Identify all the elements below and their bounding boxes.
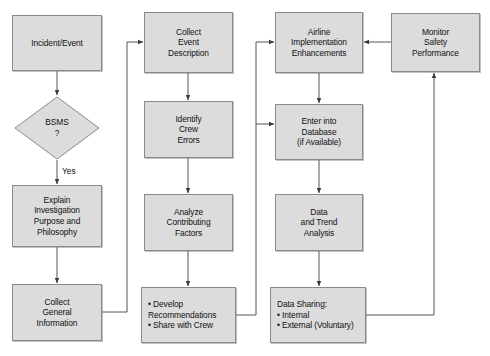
node-identify-crew-errors[interactable]: Identify Crew Errors: [144, 101, 233, 158]
node-label: Identify Crew Errors: [175, 114, 201, 146]
node-label: Monitor Safety Performance: [412, 27, 459, 59]
flowchart-canvas: Incident/Event BSMS ? Yes Explain Invest…: [0, 0, 490, 356]
node-label: • Develop Recommendations • Share with C…: [148, 299, 216, 331]
node-analyze-contributing-factors[interactable]: Analyze Contributing Factors: [144, 194, 233, 251]
node-label: BSMS ?: [14, 96, 100, 160]
edge-sharing-to-monitor: [366, 73, 434, 315]
node-label: Airline Implementation Enhancements: [291, 27, 347, 59]
node-airline-implementation-enhancements[interactable]: Airline Implementation Enhancements: [275, 12, 363, 73]
node-label: Data and Trend Analysis: [301, 207, 338, 239]
node-data-and-trend-analysis[interactable]: Data and Trend Analysis: [275, 194, 363, 251]
node-label: Incident/Event: [31, 38, 83, 49]
node-monitor-safety-performance[interactable]: Monitor Safety Performance: [391, 13, 480, 72]
edge-label-yes: Yes: [62, 166, 76, 176]
node-incident-event[interactable]: Incident/Event: [12, 15, 102, 71]
node-label: Collect Event Description: [168, 27, 209, 59]
node-explain-investigation[interactable]: Explain Investigation Purpose and Philos…: [12, 185, 102, 247]
node-label: Data Sharing: • Internal • External (Vol…: [277, 299, 354, 331]
node-collect-event-description[interactable]: Collect Event Description: [144, 12, 233, 73]
edge-collect-general-to-collect-event: [102, 42, 143, 312]
node-label: Collect General Information: [37, 297, 78, 329]
node-enter-into-database[interactable]: Enter into Database (if Available): [275, 104, 363, 160]
node-collect-general-information[interactable]: Collect General Information: [12, 284, 102, 341]
node-bsms-decision[interactable]: BSMS ?: [14, 96, 100, 160]
node-data-sharing[interactable]: Data Sharing: • Internal • External (Vol…: [270, 287, 366, 343]
node-label: Enter into Database (if Available): [297, 116, 341, 148]
node-develop-recommendations[interactable]: • Develop Recommendations • Share with C…: [141, 287, 236, 343]
edge-develop-to-airline: [236, 42, 274, 315]
node-label: Explain Investigation Purpose and Philos…: [34, 195, 80, 237]
node-label: Analyze Contributing Factors: [167, 207, 211, 239]
